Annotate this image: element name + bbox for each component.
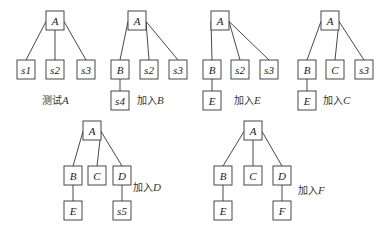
- tree-node-b: B: [203, 60, 221, 79]
- tree-node-b: B: [214, 166, 232, 185]
- tree-edge: [229, 21, 269, 60]
- tree-node-a: A: [321, 11, 339, 30]
- node-label: B: [304, 64, 311, 76]
- tree-edge: [120, 21, 128, 60]
- tree-caption: 测试A: [42, 94, 69, 106]
- tree-node-s3: s3: [169, 60, 187, 79]
- node-label: s3: [359, 64, 369, 76]
- node-label: s1: [21, 64, 31, 76]
- tree-node-c: C: [326, 60, 344, 79]
- tree-edge: [64, 21, 86, 60]
- tree-0: As1s2s3测试A: [17, 11, 95, 106]
- node-label: B: [220, 170, 227, 182]
- tree-edge: [73, 131, 83, 166]
- node-label: A: [216, 15, 224, 27]
- node-label: A: [51, 15, 59, 27]
- tree-caption: 加入B: [137, 94, 164, 106]
- tree-node-d: D: [113, 166, 131, 185]
- node-label: s3: [264, 64, 274, 76]
- node-label: s2: [144, 64, 154, 76]
- tree-node-d: D: [273, 166, 291, 185]
- node-label: D: [277, 170, 286, 182]
- node-label: F: [278, 205, 286, 217]
- node-label: s2: [50, 64, 60, 76]
- tree-node-c: C: [244, 166, 262, 185]
- tree-2: ABs2s3E加入E: [203, 11, 278, 110]
- node-label: E: [208, 95, 216, 107]
- node-label: E: [69, 205, 77, 217]
- node-label: D: [117, 170, 126, 182]
- tree-edge: [223, 131, 244, 166]
- tree-node-a: A: [128, 11, 146, 30]
- tree-1: ABs2s3s4加入B: [111, 11, 187, 110]
- tree-edge: [339, 21, 364, 60]
- tree-edge: [26, 21, 46, 60]
- node-label: C: [331, 64, 339, 76]
- tree-caption: 加入F: [298, 184, 325, 196]
- tree-node-s3: s3: [77, 60, 95, 79]
- node-label: A: [249, 125, 257, 137]
- tree-4: ABCDEs5加入D: [64, 121, 161, 220]
- node-label: B: [209, 64, 216, 76]
- tree-diagram-canvas: As1s2s3测试AABs2s3s4加入BABs2s3E加入EABCs3E加入C…: [0, 0, 385, 230]
- tree-caption: 加入D: [133, 181, 161, 193]
- tree-5: ABCDEF加入F: [214, 121, 325, 220]
- node-label: s3: [173, 64, 183, 76]
- tree-node-s2: s2: [46, 60, 64, 79]
- node-label: C: [249, 170, 257, 182]
- tree-node-s2: s2: [140, 60, 158, 79]
- node-label: A: [133, 15, 141, 27]
- tree-node-e: E: [203, 91, 221, 110]
- node-label: B: [70, 170, 77, 182]
- tree-3: ABCs3E加入C: [298, 11, 373, 110]
- node-label: E: [219, 205, 227, 217]
- tree-node-a: A: [46, 11, 64, 30]
- tree-node-a: A: [83, 121, 101, 140]
- tree-node-e: E: [214, 201, 232, 220]
- tree-node-b: B: [64, 166, 82, 185]
- tree-edge: [262, 131, 282, 166]
- node-label: s5: [117, 205, 127, 217]
- tree-node-e: E: [298, 91, 316, 110]
- tree-node-b: B: [111, 60, 129, 79]
- tree-node-e: E: [64, 201, 82, 220]
- node-label: B: [117, 64, 124, 76]
- tree-node-s4: s4: [111, 91, 129, 110]
- tree-node-s5: s5: [113, 201, 131, 220]
- node-label: A: [88, 125, 96, 137]
- tree-node-c: C: [88, 166, 106, 185]
- tree-node-a: A: [211, 11, 229, 30]
- node-label: E: [303, 95, 311, 107]
- node-label: C: [93, 170, 101, 182]
- tree-node-s2: s2: [231, 60, 249, 79]
- node-label: s2: [235, 64, 245, 76]
- tree-edge: [146, 21, 178, 60]
- tree-edge: [307, 21, 321, 60]
- tree-node-s1: s1: [17, 60, 35, 79]
- tree-node-s3: s3: [260, 60, 278, 79]
- tree-node-s3: s3: [355, 60, 373, 79]
- node-label: s4: [115, 95, 125, 107]
- tree-node-b: B: [298, 60, 316, 79]
- tree-node-f: F: [273, 201, 291, 220]
- tree-node-a: A: [244, 121, 262, 140]
- tree-edge: [101, 131, 122, 166]
- tree-caption: 加入E: [234, 94, 261, 106]
- node-label: A: [326, 15, 334, 27]
- tree-caption: 加入C: [323, 94, 351, 106]
- node-label: s3: [81, 64, 91, 76]
